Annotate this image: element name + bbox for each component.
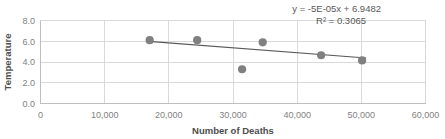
x-tick-label: 30,000	[219, 110, 247, 120]
x-tick-label: 20,000	[155, 110, 183, 120]
data-point	[358, 56, 366, 64]
y-tick-label: 6.0	[22, 37, 35, 47]
chart-canvas: 8.0 6.0 4.0 2.0 0.0 0 10,000 20,000 30,0…	[0, 0, 445, 139]
x-tick-label: 0	[38, 110, 43, 120]
data-point	[259, 38, 267, 46]
r-squared-label: R² = 0.3065	[316, 15, 366, 26]
x-tick-label: 60,000	[412, 110, 440, 120]
x-tick-label: 10,000	[91, 110, 119, 120]
y-tick-label: 4.0	[22, 57, 35, 67]
trendline-equation-label: y = -5E-05x + 6.9482	[292, 3, 381, 14]
y-axis-tick-labels: 8.0 6.0 4.0 2.0 0.0	[22, 16, 35, 109]
data-point	[238, 65, 246, 73]
y-tick-label: 2.0	[22, 78, 35, 88]
y-tick-label: 8.0	[22, 16, 35, 26]
x-tick-label: 50,000	[348, 110, 376, 120]
y-axis-title: Temperature	[2, 34, 13, 91]
scatter-chart: 8.0 6.0 4.0 2.0 0.0 0 10,000 20,000 30,0…	[0, 0, 445, 139]
x-axis-title: Number of Deaths	[192, 125, 274, 136]
data-point	[146, 36, 154, 44]
x-axis-tick-labels: 0 10,000 20,000 30,000 40,000 50,000 60,…	[38, 110, 439, 120]
x-tick-label: 40,000	[283, 110, 311, 120]
y-tick-label: 0.0	[22, 99, 35, 109]
data-point	[193, 36, 201, 44]
data-point	[317, 51, 325, 59]
